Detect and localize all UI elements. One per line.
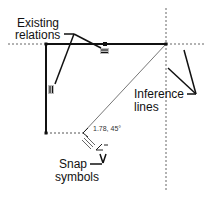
horizontal-relation-icon[interactable] [100, 48, 109, 54]
endpoint-bottom-left[interactable] [45, 132, 48, 135]
existing-relations-leader [55, 34, 101, 84]
inference-lines-label-line2: lines [134, 101, 159, 113]
snap-symbols-label-line2: symbols [55, 171, 99, 183]
snap-symbols-label-line1: Snap [59, 158, 87, 170]
length-angle-readout: 1.78, 45° [93, 125, 121, 133]
midpoint-marker[interactable] [103, 42, 107, 46]
endpoint-top-right[interactable] [165, 43, 168, 46]
endpoint-top-left[interactable] [45, 43, 48, 46]
vertical-relation-icon[interactable] [48, 85, 54, 94]
parallel-snap-icon [82, 136, 95, 149]
pencil-cursor-icon [83, 128, 88, 137]
inference-lines-label-line1: Inference [134, 88, 184, 100]
angle-snap-icon [96, 144, 108, 150]
vertical-snap-icon [100, 154, 106, 163]
existing-relations-label-line2: relations [15, 29, 60, 41]
